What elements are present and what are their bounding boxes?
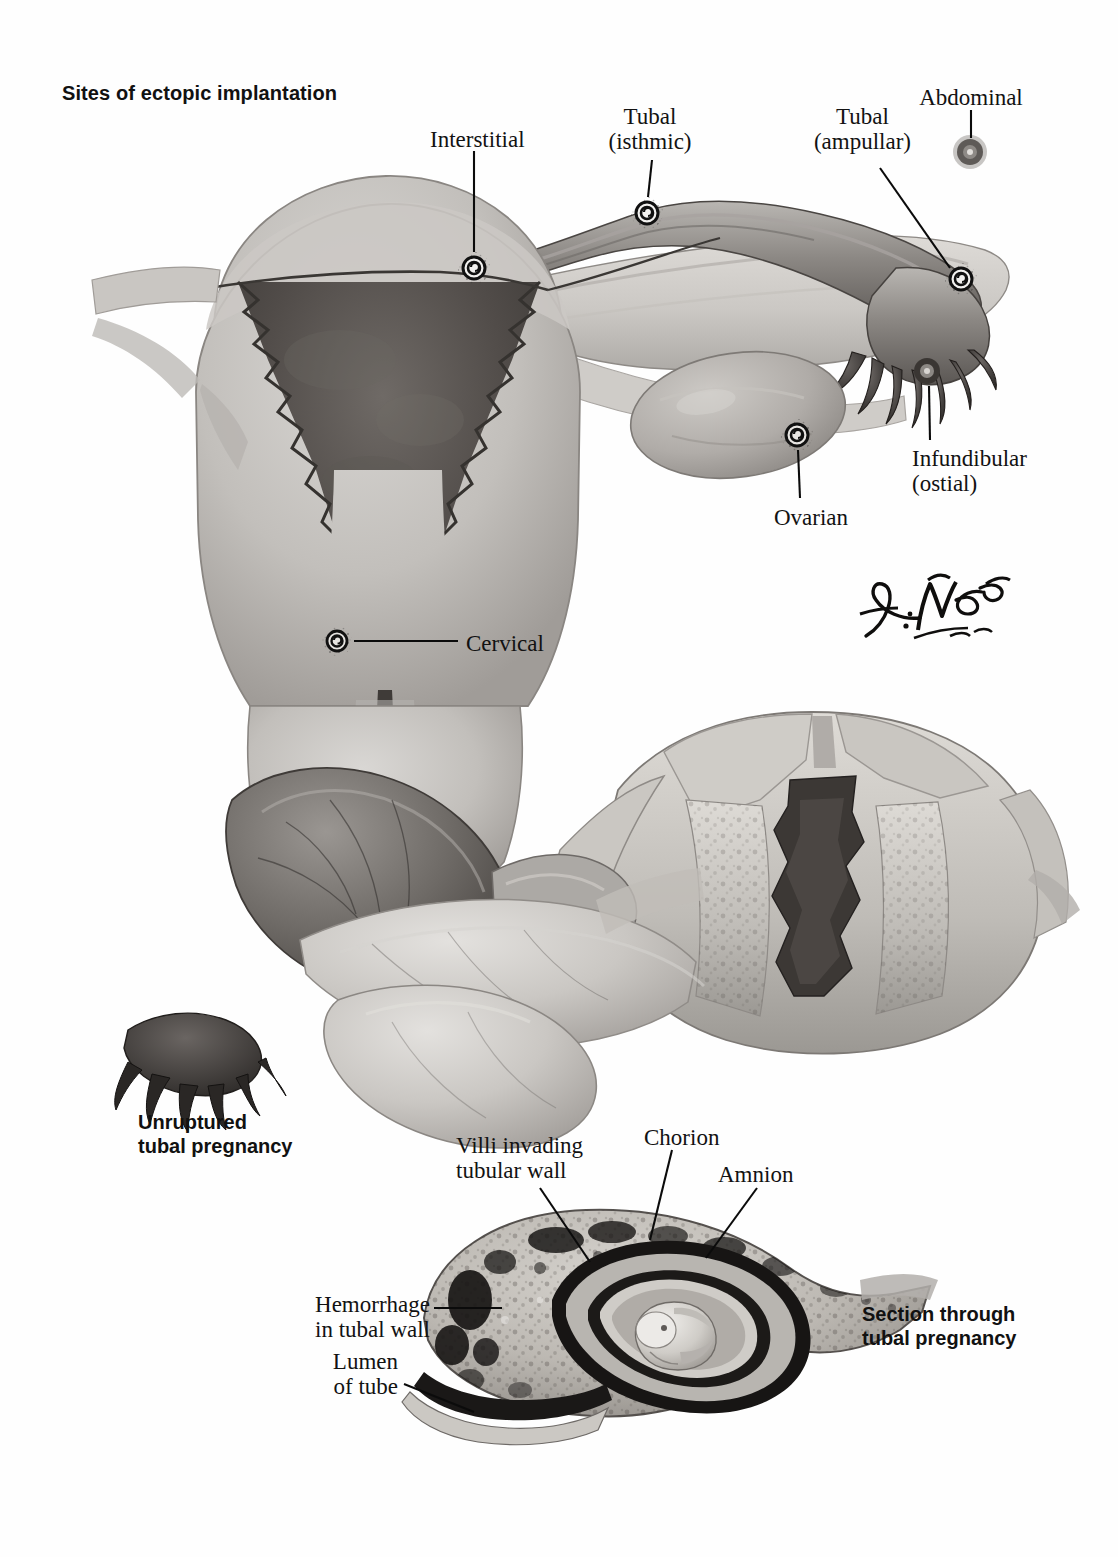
label-villi-invading-tubular-wall: Villi invading tubular wall [456,1134,583,1183]
label-tubal-isthmic: Tubal (isthmic) [590,105,710,154]
label-lumen-of-tube: Lumen of tube [180,1350,398,1399]
netter-signature [860,575,1010,638]
label-chorion: Chorion [644,1126,719,1151]
page-title: Sites of ectopic implantation [62,82,337,105]
abdominal-site-marker [953,135,987,169]
embryo [635,1302,716,1370]
caption-unruptured-tubal-pregnancy: Unruptured tubal pregnancy [138,1110,292,1159]
label-cervical: Cervical [466,632,544,657]
label-infundibular-ostial: Infundibular (ostial) [912,447,1027,496]
label-tubal-ampullar: Tubal (ampullar) [790,105,935,154]
label-abdominal: Abdominal [900,86,1042,111]
bottom-panel-art [402,1150,950,1445]
label-hemorrhage-in-tubal-wall: Hemorrhage in tubal wall [180,1293,430,1342]
caption-section-through-tubal-pregnancy: Section through tubal pregnancy [862,1302,1016,1351]
label-amnion: Amnion [718,1163,793,1188]
plate-canvas: Sites of ectopic implantation Interstiti… [0,0,1118,1557]
label-ovarian: Ovarian [774,506,848,531]
label-interstitial: Interstitial [430,128,525,153]
